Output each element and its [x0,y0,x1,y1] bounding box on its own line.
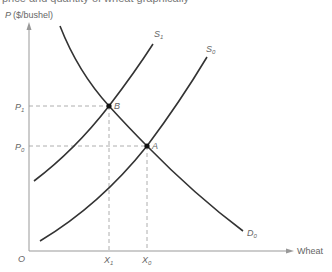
s1-curve-label: S1 [154,29,163,40]
p1-tick-label: P1 [15,102,24,113]
y-axis-arrow-icon [27,22,32,30]
supply-curve-s0 [40,57,207,241]
supply-demand-diagram: P($/bushel) Wheat O P1 P0 X1 X0 S1 S0 D0… [0,0,332,272]
point-a-label: A [151,141,158,151]
point-b-label: B [114,101,120,111]
demand-curve-d0 [60,26,243,231]
origin-label: O [18,254,25,264]
point-b-marker [106,103,111,108]
x0-tick-label: X0 [141,255,152,266]
x1-tick-label: X1 [103,255,113,266]
d0-curve-label: D0 [247,228,258,239]
axes [29,28,288,251]
s0-curve-label: S0 [206,44,216,55]
y-axis-label: P($/bushel) [5,10,53,20]
point-a-marker [144,143,149,148]
p0-tick-label: P0 [15,142,25,153]
x-axis-label: Wheat [297,246,324,256]
x-axis-arrow-icon [286,249,294,254]
